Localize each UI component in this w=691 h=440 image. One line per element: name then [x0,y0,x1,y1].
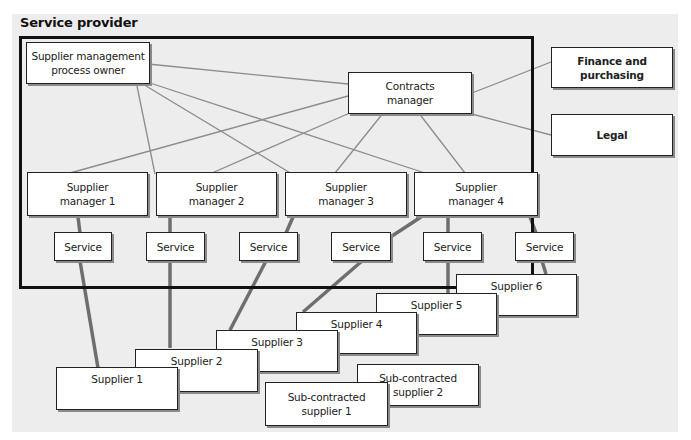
supplier-manager-2-node[interactable]: Supplier manager 2 [156,172,277,216]
node-label: Service [64,240,101,254]
node-label: Service [434,240,471,254]
node-label: Supplier management process owner [31,49,144,77]
service-5-node[interactable]: Service [423,232,482,261]
supplier-manager-1-node[interactable]: Supplier manager 1 [27,172,148,216]
subcontracted-supplier-1-node[interactable]: Sub-contracted supplier 1 [265,382,388,426]
service-1-node[interactable]: Service [54,232,112,261]
node-label: Supplier 2 [171,354,222,368]
node-label: Finance and purchasing [577,54,647,82]
node-label: Supplier 4 [331,317,382,331]
node-label: Service [157,240,194,254]
supplier-manager-3-node[interactable]: Supplier manager 3 [285,172,407,216]
node-label: Supplier manager 1 [60,180,115,208]
node-label: Legal [596,128,627,142]
contracts-manager-node[interactable]: Contracts manager [348,72,472,114]
node-label: Sub-contracted supplier 1 [288,390,366,418]
node-label: Service [526,240,563,254]
service-6-node[interactable]: Service [515,232,574,261]
node-label: Service [250,240,287,254]
service-4-node[interactable]: Service [331,232,391,261]
legal-node[interactable]: Legal [551,114,673,156]
node-label: Sub-contracted supplier 2 [379,371,457,399]
node-label: Supplier 5 [411,298,462,312]
finance-purchasing-node[interactable]: Finance and purchasing [551,47,673,88]
node-label: Supplier 1 [91,372,142,386]
node-label: Supplier manager 2 [189,180,244,208]
diagram-canvas: Service provider [0,0,691,440]
node-label: Supplier manager 4 [448,180,503,208]
service-3-node[interactable]: Service [239,232,298,261]
service-2-node[interactable]: Service [146,232,205,261]
process-owner-node[interactable]: Supplier management process owner [26,42,150,84]
supplier-manager-4-node[interactable]: Supplier manager 4 [414,172,538,216]
supplier-1-node[interactable]: Supplier 1 [56,367,178,410]
node-label: Supplier 3 [251,335,302,349]
node-label: Contracts manager [386,79,435,107]
node-label: Supplier manager 3 [318,180,373,208]
node-label: Supplier 6 [491,279,542,293]
node-label: Service [342,240,379,254]
